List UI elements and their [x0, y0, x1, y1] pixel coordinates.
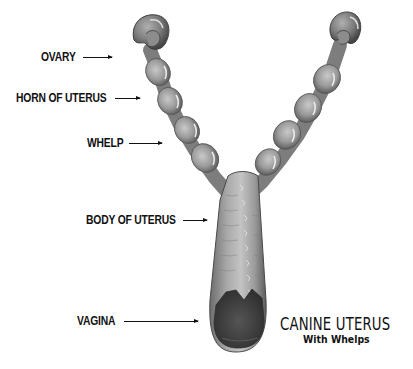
label-whelp: WHELP: [87, 136, 123, 150]
arrow-whelp: [129, 143, 162, 144]
right-ovary: [330, 12, 361, 44]
label-vagina: VAGINA: [77, 314, 115, 328]
diagram-title: CANINE UTERUS: [280, 314, 390, 334]
arrow-vagina: [124, 321, 198, 322]
vaginal-opening: [214, 289, 264, 348]
diagram-subtitle: With Whelps: [303, 333, 370, 346]
label-body-of-uterus: BODY OF UTERUS: [86, 213, 176, 227]
label-horn-of-uterus: HORN OF UTERUS: [16, 91, 106, 105]
arrow-horn-of-uterus: [115, 98, 140, 99]
arrow-body-of-uterus: [183, 220, 207, 221]
label-ovary: OVARY: [41, 50, 76, 64]
arrow-ovary: [83, 57, 112, 58]
right-uterine-horn: [248, 45, 346, 195]
left-uterine-horn: [141, 50, 230, 195]
left-ovary: [133, 15, 169, 50]
uterine-body: [210, 172, 266, 353]
